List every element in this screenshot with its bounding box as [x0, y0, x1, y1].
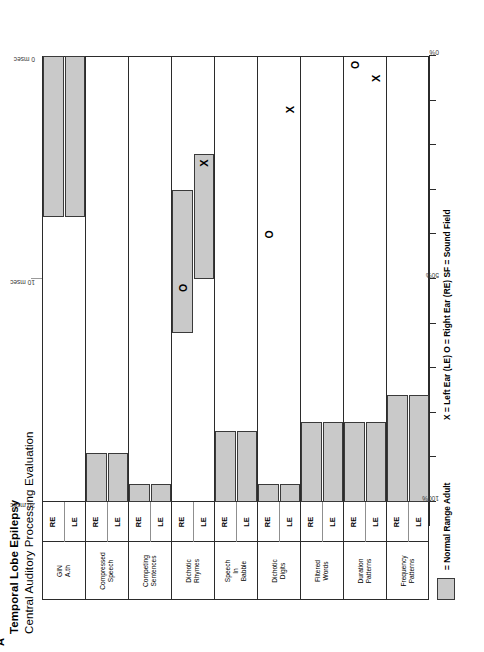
normal-range-bar: [108, 453, 129, 502]
normal-range-bar: [43, 56, 64, 217]
normal-range-bar: [258, 484, 279, 502]
legend-marker-key: X = Left Ear (LE) O = Right Ear (RE) SF …: [442, 209, 452, 420]
bottom-axis-tick: [429, 189, 436, 190]
result-marker-right-ear: O: [350, 61, 361, 69]
normal-range-bar: [323, 422, 344, 502]
result-marker-left-ear: X: [285, 106, 296, 113]
normal-range-bar: [194, 154, 215, 279]
bottom-axis-tick: [429, 100, 436, 101]
bottom-axis-tick: [429, 144, 436, 145]
normal-range-bar: [301, 422, 322, 502]
result-marker-left-ear: X: [371, 75, 382, 82]
normal-range-bar: [86, 453, 107, 502]
axis-label-50-percent: 50%: [426, 272, 439, 279]
normal-range-bar: [172, 190, 193, 333]
bottom-axis-tick: [429, 367, 436, 368]
axis-label-100-percent: 100%: [422, 495, 439, 502]
axis-label-10-msec: 10 msec: [10, 279, 35, 286]
normal-range-bar: [237, 431, 258, 502]
normal-range-bar: [387, 395, 408, 502]
rotated-figure-group: Temporal Lobe Epilepsy Central Auditory …: [0, 0, 484, 652]
normal-range-bar: [280, 484, 301, 502]
legend-normal-range-swatch: [437, 578, 455, 600]
bottom-axis-tick: [429, 323, 436, 324]
plot-area: OXOXOX: [0, 0, 484, 652]
result-marker-right-ear: O: [264, 230, 275, 238]
result-marker-left-ear: X: [199, 159, 210, 166]
normal-range-bar: [215, 431, 236, 502]
normal-range-bar: [409, 395, 430, 502]
legend-normal-range-label: = Normal Range Adult: [442, 483, 452, 570]
axis-label-0-msec: 0 msec: [14, 56, 35, 63]
bottom-axis-tick: [429, 233, 436, 234]
bottom-axis-tick: [429, 412, 436, 413]
bottom-axis-tick: [429, 456, 436, 457]
normal-range-bar: [366, 422, 387, 502]
normal-range-bar: [344, 422, 365, 502]
axis-label-0-percent: 0%: [429, 49, 439, 56]
figure-canvas: A Temporal Lobe Epilepsy Central Auditor…: [0, 0, 484, 652]
normal-range-bar: [65, 56, 86, 217]
axis-label-20-msec: 20 msec: [10, 502, 35, 509]
normal-range-bar: [129, 484, 150, 502]
normal-range-bar: [151, 484, 172, 502]
result-marker-right-ear: O: [178, 284, 189, 292]
